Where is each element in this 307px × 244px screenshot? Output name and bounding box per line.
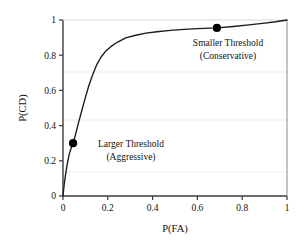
- x-tick-label: 0: [61, 203, 66, 213]
- x-tick-label: 0.2: [102, 203, 114, 213]
- y-tick-label: 0.2: [44, 156, 56, 166]
- marker-larger-threshold: [69, 139, 77, 147]
- annotation-line-1: Larger Threshold: [98, 139, 164, 149]
- annotation-line-2: (Aggressive): [106, 152, 155, 163]
- annotation-line-1: Smaller Threshold: [193, 38, 264, 48]
- y-tick-label: 1: [51, 15, 56, 25]
- x-tick-label: 0.8: [236, 203, 248, 213]
- chart-canvas: 00.20.40.60.81 00.20.40.60.81 Smaller Th…: [0, 0, 307, 244]
- marker-smaller-threshold: [213, 24, 221, 32]
- x-tick-label: 1: [285, 203, 290, 213]
- y-tick-label: 0.8: [44, 51, 56, 61]
- annotation-line-2: (Conservative): [200, 51, 256, 62]
- x-tick-label: 0.6: [191, 203, 203, 213]
- y-tick-label: 0: [51, 191, 56, 201]
- y-tick-label: 0.6: [44, 86, 56, 96]
- x-axis-title: P(FA): [162, 223, 188, 235]
- x-tick-label: 0.4: [147, 203, 159, 213]
- y-axis-title: P(CD): [17, 94, 29, 122]
- y-tick-label: 0.4: [44, 121, 56, 131]
- roc-chart-figure: 00.20.40.60.81 00.20.40.60.81 Smaller Th…: [0, 0, 307, 244]
